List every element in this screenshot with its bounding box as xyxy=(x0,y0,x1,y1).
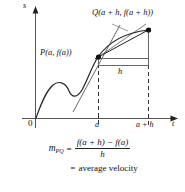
fraction-numerator: f(a + h) − f(a) xyxy=(75,138,131,148)
point-p-marker xyxy=(96,54,101,59)
x-tick-label-a: a xyxy=(95,121,99,129)
dashed-guide-lines xyxy=(99,30,149,125)
slope-symbol-base: m xyxy=(49,143,56,153)
x-axis xyxy=(22,116,178,122)
y-axis xyxy=(33,6,39,128)
fraction-denominator: h xyxy=(100,149,105,159)
point-q-marker xyxy=(146,27,151,32)
tangent-line xyxy=(73,25,120,112)
secant-line xyxy=(95,29,151,59)
equals-sign-2: = xyxy=(70,163,75,173)
difference-quotient: f(a + h) − f(a) h xyxy=(75,138,131,160)
average-velocity-diagram: s t 0 a a + h P(a, f(a)) Q(a + h, f(a + … xyxy=(0,0,185,192)
x-tick-label-a-plus-h: a + h xyxy=(136,121,153,129)
slope-symbol-subscript: PQ xyxy=(56,148,64,154)
h-interval-bracket xyxy=(99,59,149,66)
x-axis-ticks xyxy=(99,115,149,119)
point-p-label: P(a, f(a)) xyxy=(40,48,72,57)
x-axis-label: t xyxy=(172,120,174,128)
slope-symbol: mPQ xyxy=(49,143,64,154)
point-q-label: Q(a + h, f(a + h)) xyxy=(92,8,153,17)
average-velocity-label: average velocity xyxy=(78,163,137,173)
origin-label: 0 xyxy=(28,119,33,128)
secant-line-extension xyxy=(97,24,146,58)
equals-sign-1: = xyxy=(67,144,72,154)
average-velocity-equation: = average velocity xyxy=(20,163,185,173)
slope-equation: mPQ = f(a + h) − f(a) h xyxy=(0,138,185,160)
h-interval-label: h xyxy=(118,67,122,76)
y-axis-label: s xyxy=(23,2,26,10)
position-curve xyxy=(36,30,148,118)
formula-block: mPQ = f(a + h) − f(a) h = average veloci… xyxy=(0,138,185,173)
